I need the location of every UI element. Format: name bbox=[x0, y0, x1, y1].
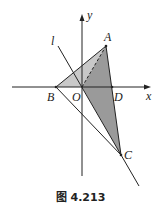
figure-caption: 图 4.213 bbox=[56, 191, 106, 204]
point-d bbox=[111, 86, 114, 89]
y-axis-arrow-icon bbox=[80, 14, 85, 21]
point-c bbox=[120, 154, 123, 157]
label-o: O bbox=[72, 90, 81, 104]
y-axis-label: y bbox=[86, 8, 93, 22]
x-axis-label: x bbox=[145, 89, 152, 103]
coordinate-diagram: y x A B O D C l 图 4.213 bbox=[0, 0, 161, 207]
label-line-l: l bbox=[51, 34, 55, 48]
label-c: C bbox=[124, 148, 133, 162]
point-a bbox=[105, 45, 108, 48]
label-d: D bbox=[113, 90, 123, 104]
label-b: B bbox=[47, 90, 55, 104]
point-b bbox=[55, 86, 58, 89]
label-a: A bbox=[103, 30, 112, 44]
